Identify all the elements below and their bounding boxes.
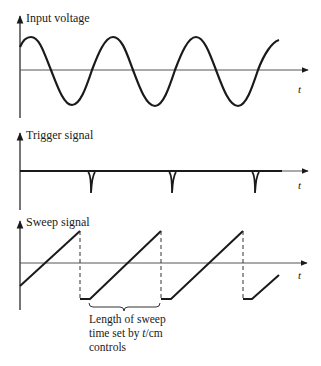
annotation-line-3: controls (89, 340, 166, 354)
input-voltage-panel (20, 16, 308, 118)
sweep-ramp (20, 231, 80, 286)
sweep-length-annotation: Length of sweep time set by t/cm control… (89, 312, 166, 354)
sweep-ramp (243, 275, 279, 299)
annotation-line-2-suffix: /cm (146, 327, 163, 339)
sweep-length-brace (89, 303, 160, 311)
sweep-ramp (80, 231, 161, 299)
sweep-signal-label: Sweep signal (26, 216, 90, 228)
annotation-line-1: Length of sweep (89, 312, 166, 326)
trigger-signal-panel (20, 133, 308, 210)
sweep-signal-panel (20, 221, 307, 311)
sweep-t-label: t (298, 270, 301, 281)
input-sine-wave (20, 37, 279, 106)
trigger-t-label: t (298, 180, 301, 191)
annotation-line-2: time set by t/cm (89, 326, 166, 340)
annotation-line-2-prefix: time set by (89, 327, 142, 339)
trigger-pulse (252, 172, 259, 193)
input-voltage-label: Input voltage (26, 12, 90, 24)
flyback-dashes (80, 231, 243, 299)
trigger-signal-label: Trigger signal (26, 129, 93, 141)
sweep-ramp (161, 231, 243, 299)
input-t-label: t (298, 84, 301, 95)
trigger-pulse (88, 172, 95, 193)
trigger-pulse (169, 172, 176, 193)
